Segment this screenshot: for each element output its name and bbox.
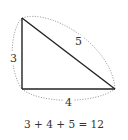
- label-side-5: 5: [75, 35, 82, 48]
- perimeter-equation: 3 + 4 + 5 = 12: [0, 118, 128, 130]
- label-side-3: 3: [10, 52, 17, 65]
- side-hypotenuse: [22, 18, 115, 89]
- label-side-4: 4: [65, 96, 72, 109]
